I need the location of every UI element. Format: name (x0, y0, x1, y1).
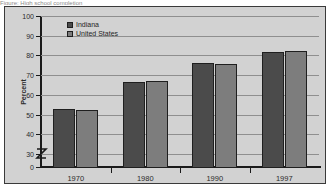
bar (146, 81, 168, 168)
bar-group (192, 16, 237, 168)
y-tick-label: 80 (26, 52, 34, 59)
legend-swatch (67, 31, 73, 37)
x-tick-label: 1997 (276, 175, 293, 183)
bar (192, 63, 214, 168)
y-tick-mark (36, 75, 41, 76)
y-tick-mark (36, 55, 41, 56)
legend-item: United States (67, 29, 118, 38)
chart-plot-frame: 304050607080901000 Percent 1970198019901… (4, 6, 326, 184)
x-tick-label: 1970 (67, 175, 84, 183)
y-tick-mark (36, 36, 41, 37)
y-tick-label-zero: 0 (30, 164, 34, 171)
x-tick-label: 1990 (206, 175, 223, 183)
y-tick-label: 70 (26, 72, 34, 79)
bar-group (123, 16, 168, 168)
y-tick-label: 100 (22, 13, 34, 20)
y-tick-label: 90 (26, 32, 34, 39)
bar (215, 64, 237, 168)
legend-item: Indiana (67, 20, 118, 29)
bar (123, 82, 145, 168)
axis-break-icon (35, 146, 48, 166)
figure-caption: Figure: High school completion (0, 0, 333, 5)
legend-label: Indiana (76, 21, 99, 29)
y-tick-mark-zero (36, 167, 41, 168)
legend-swatch (67, 22, 73, 28)
x-tick-mark (250, 168, 251, 173)
bar (262, 52, 284, 169)
chart-figure: Figure: High school completion 304050607… (0, 0, 333, 192)
y-tick-mark (36, 95, 41, 96)
y-axis-title: Percent (20, 79, 27, 105)
y-tick-label: 60 (26, 91, 34, 98)
legend-label: United States (76, 30, 118, 38)
x-tick-label: 1980 (137, 175, 154, 183)
chart-legend: IndianaUnited States (65, 19, 121, 40)
y-tick-mark (36, 134, 41, 135)
bar-group (262, 16, 307, 168)
bar (76, 110, 98, 168)
y-tick-label: 40 (26, 131, 34, 138)
y-tick-label: 30 (26, 151, 34, 158)
bar (285, 51, 307, 169)
x-tick-mark (180, 168, 181, 173)
y-tick-label: 50 (26, 111, 34, 118)
x-tick-mark (111, 168, 112, 173)
bar (53, 109, 75, 168)
y-tick-mark (36, 16, 41, 17)
y-tick-mark (36, 115, 41, 116)
